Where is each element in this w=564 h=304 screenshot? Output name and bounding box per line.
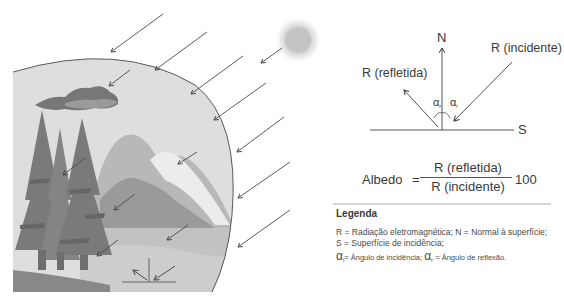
- alpha-r-text: = Ângulo de reflexão.: [435, 253, 506, 262]
- angle-reflected-label: αr: [433, 96, 441, 109]
- earth-radiation-illustration: [0, 0, 330, 304]
- formula-multiplier: 100: [515, 172, 537, 187]
- incident-arrow: [454, 62, 512, 121]
- legend-line-2: S = Superfície de incidência;: [336, 238, 444, 248]
- legend-title: Legenda: [336, 208, 377, 219]
- legend-divider: [333, 203, 551, 205]
- fraction-bar: [420, 177, 512, 178]
- legend-line-1: R = Radiação eletromagnética; N = Normal…: [336, 227, 547, 237]
- subscript: i: [456, 103, 457, 109]
- alpha-symbol: α: [336, 249, 343, 263]
- incident-label: R (incidente): [491, 41, 562, 55]
- formula-equals: =: [412, 172, 420, 187]
- subscript: r: [439, 103, 441, 109]
- formula-denominator: R (incidente): [424, 179, 512, 194]
- subscript: r: [431, 257, 433, 263]
- formula-lhs: Albedo: [362, 172, 402, 187]
- normal-label: N: [437, 30, 446, 45]
- alpha-i-text: = Ângulo de incidência;: [344, 253, 422, 262]
- formula-numerator: R (refletida): [424, 160, 512, 175]
- legend-line-3: αi= Ângulo de incidência; αr = Ângulo de…: [336, 249, 506, 263]
- reflected-label: R (refletida): [362, 66, 427, 80]
- surface-label: S: [518, 122, 527, 137]
- angle-incident-label: αi: [450, 96, 458, 109]
